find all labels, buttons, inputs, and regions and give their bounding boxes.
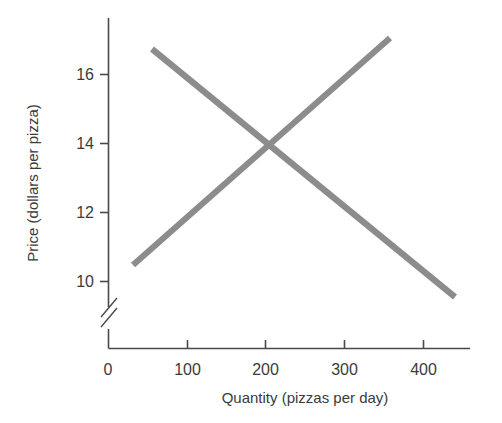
y-tick-label-14: 14 [76, 135, 94, 152]
y-axis-break-slash-1 [101, 308, 117, 327]
y-tick-label-16: 16 [76, 66, 94, 83]
x-axis-tick-labels: 0 100 200 300 400 [104, 361, 437, 378]
x-axis-ticks [188, 340, 424, 349]
y-axis-tick-labels: 16 14 12 10 [76, 66, 94, 290]
x-axis-title: Quantity (pizzas per day) [222, 389, 389, 406]
supply-curve [133, 38, 390, 265]
x-tick-label-300: 300 [331, 361, 358, 378]
chart-container: 16 14 12 10 0 100 200 300 400 Quantity (… [0, 0, 502, 423]
y-axis-ticks [100, 75, 109, 282]
y-tick-label-12: 12 [76, 204, 94, 221]
supply-demand-chart: 16 14 12 10 0 100 200 300 400 Quantity (… [0, 0, 502, 423]
y-tick-label-10: 10 [76, 273, 94, 290]
x-tick-label-100: 100 [174, 361, 201, 378]
x-tick-label-400: 400 [410, 361, 437, 378]
y-axis-title: Price (dollars per pizza) [24, 104, 41, 262]
x-tick-label-200: 200 [252, 361, 279, 378]
x-tick-label-0: 0 [104, 361, 113, 378]
demand-curve [152, 49, 455, 297]
